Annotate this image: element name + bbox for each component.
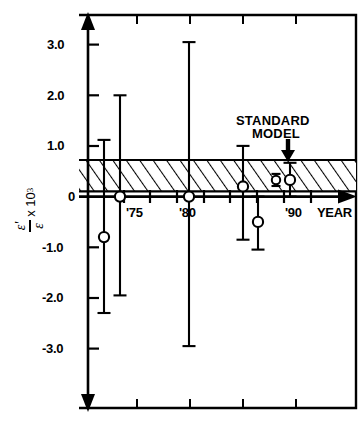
y-axis-arrowhead-down	[81, 394, 95, 412]
y-axis	[81, 12, 95, 412]
standard-model-arrow-icon	[281, 139, 295, 162]
data-series-measurements	[98, 42, 297, 346]
x-axis-title: YEAR	[317, 205, 352, 220]
y-tick-label-3.0: 3.0	[47, 37, 64, 52]
y-tick-label-1.0: 1.0	[47, 138, 64, 153]
x-tick-label-75: '75	[126, 205, 143, 220]
figure-chart-epsilon-prime-over-epsilon: ε' ε x 103	[0, 0, 364, 430]
data-point-3[interactable]	[183, 42, 196, 346]
x-tick-label-90: '90	[285, 205, 302, 220]
y-tick-label--2.0: -2.0	[42, 290, 63, 305]
standard-model-label-line2: MODEL	[252, 126, 300, 141]
frame-ticks-bottom	[137, 399, 296, 408]
y-tick-label--3.0: -3.0	[42, 341, 63, 356]
y-tick-label-2.0: 2.0	[47, 88, 64, 103]
x-tick-label-80: '80	[179, 205, 196, 220]
data-point-2[interactable]	[114, 95, 127, 295]
y-tick-label-0: 0	[68, 189, 75, 204]
data-point-5[interactable]	[252, 197, 265, 250]
frame-ticks-top	[137, 15, 296, 24]
y-tick-label--1.0: -1.0	[42, 240, 63, 255]
